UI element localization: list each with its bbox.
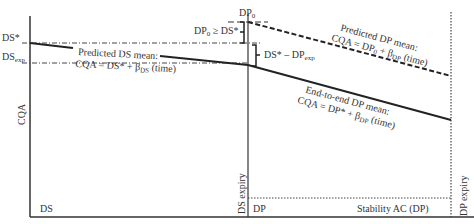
y-axis-label: CQA — [16, 103, 27, 125]
ds-exp-label: DSexp — [2, 51, 25, 64]
predicted-dp-annotation: Predicted DP mean: CQA = DP0 + βDP (time… — [330, 20, 432, 70]
dp0-label: DP0 — [239, 7, 256, 20]
dp-region-label: DP — [253, 203, 266, 214]
bracket-ds-minus-dp — [252, 45, 260, 66]
predicted-ds-line — [30, 43, 73, 48]
ds-star-label: DS* — [2, 32, 20, 43]
dp0-ge-ds-label: DP0 ≥ DS* — [194, 25, 239, 38]
cqa-stability-diagram: DS* DSexp DP0 DP0 ≥ DS* DS* – DPexp Pred… — [0, 0, 474, 224]
ds-minus-dp-label: DS* – DPexp — [264, 49, 315, 62]
end-to-end-dp-annotation: End-to-end DP mean: CQA = DP* + βDP (tim… — [296, 83, 400, 133]
ds-expiry-label: DS expiry — [236, 173, 247, 214]
ds-region-label: DS — [40, 203, 53, 214]
svg-text:CQA = DS* + βDS (time): CQA = DS* + βDS (time) — [75, 58, 176, 76]
dp-expiry-label: DP expiry — [458, 176, 469, 216]
predicted-ds-annotation: Predicted DS mean: CQA = DS* + βDS (time… — [75, 46, 177, 76]
stability-ac-label: Stability AC (DP) — [357, 203, 429, 215]
bracket-dp0-ge-ds — [240, 22, 244, 43]
